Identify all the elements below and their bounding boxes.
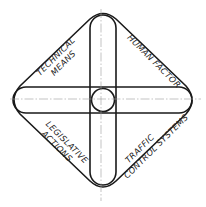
horizontal-oval [13, 87, 192, 113]
outer-rounded-diamond [14, 14, 192, 188]
label-traffic-control-systems: TRAFFIC CONTROL SYSTEMS [115, 105, 191, 181]
vertical-oval [90, 15, 116, 185]
label-human-factor-text: HUMAN FACTOR [125, 32, 183, 90]
label-legislative-actions: LEGISLATIVE ACTIONS [37, 119, 91, 173]
label-technical-means: TECHNICAL MEANS [34, 35, 84, 85]
label-human-factor: HUMAN FACTOR [125, 32, 183, 90]
label-control-systems: CONTROL SYSTEMS [122, 112, 191, 181]
road-safety-diagram: TECHNICAL MEANS HUMAN FACTOR LEGISLATIVE… [0, 0, 206, 207]
center-circle [92, 89, 115, 112]
